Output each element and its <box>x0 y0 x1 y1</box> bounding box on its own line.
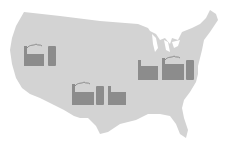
us-map <box>0 0 239 149</box>
